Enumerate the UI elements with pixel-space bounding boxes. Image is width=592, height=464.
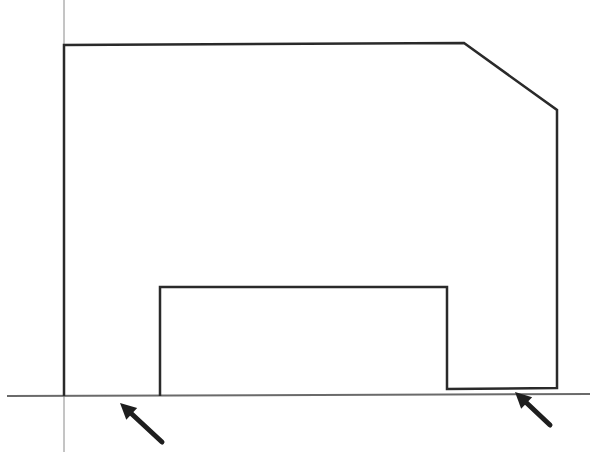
arrows-group <box>120 392 550 442</box>
right-contact-arrow-shaft <box>524 401 550 425</box>
profile-outline <box>64 43 557 396</box>
ground-baseline <box>7 394 590 396</box>
profile-diagram <box>0 0 592 464</box>
diagram-canvas <box>0 0 592 464</box>
left-contact-arrow-shaft <box>129 412 162 442</box>
